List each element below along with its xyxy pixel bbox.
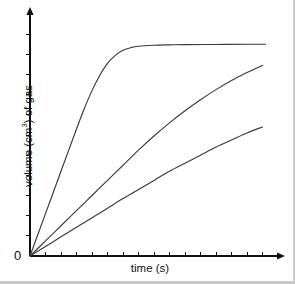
origin-label: 0 [14,248,21,263]
curve-series-0 [30,44,266,256]
curve-series-2 [30,127,263,256]
x-axis-arrowhead [277,252,285,259]
y-axis-label-suffix: ) of gas [22,85,34,123]
y-axis-label-superscript: 3 [20,123,29,127]
x-axis-label: time (s) [105,262,195,274]
y-axis-arrowhead [26,7,33,15]
y-axis-label: volume (cm3) of gas [22,56,34,216]
data-curves [30,44,266,256]
chart-plot-area [0,0,295,284]
y-axis-label-prefix: volume (cm [22,128,34,187]
chart-figure: volume (cm3) of gas time (s) 0 [0,0,295,284]
